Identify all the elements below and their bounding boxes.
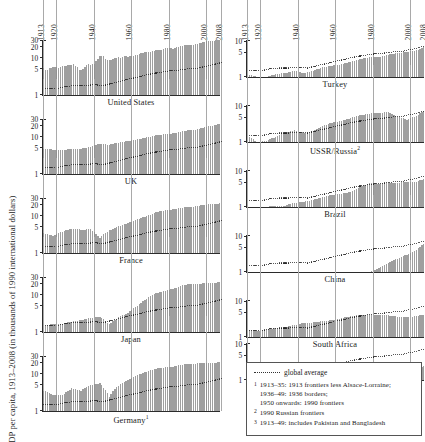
global-average-point [221,220,222,221]
global-average-point [120,318,121,319]
global-average-point [341,189,342,190]
global-average-point [294,197,295,198]
y-tick-label: 1 [239,203,243,210]
y-axis-label: GDP per capita, 1913–2008 (in thousands … [7,7,21,442]
y-tick-label: 1 [239,138,243,145]
global-average-point [279,327,280,328]
global-average-point [176,307,177,308]
panel-brazil: 1510Brazil [228,170,424,221]
global-average-point [371,184,372,185]
global-average-point [210,65,211,66]
panel-caption: Germany1 [42,414,220,425]
global-average-point [279,262,280,263]
y-tick-label: 5 [35,224,39,231]
global-average-point [264,264,265,265]
global-average-point [210,381,211,382]
global-average-point [266,199,267,200]
global-average-point [133,77,134,78]
global-average-point [311,196,312,197]
global-average-point [339,60,340,61]
global-average-point [384,312,385,313]
global-average-point [266,69,267,70]
global-average-point [116,319,117,320]
y-tick-label: 5 [239,309,243,316]
year-tick-label: 1960 [126,24,134,40]
global-average-point [165,308,166,309]
y-tick-label: 10 [235,103,243,110]
global-average-point [307,262,308,263]
global-average-point [148,74,149,75]
global-average-point [165,71,166,72]
global-average-point [105,242,106,243]
year-axis-right: 1913192019401960198020002008 [228,0,424,40]
bar [423,315,424,337]
global-average-point [382,248,383,249]
global-average-point [399,311,400,312]
global-average-point [88,322,89,323]
global-average-point [384,355,385,356]
global-average-point [354,121,355,122]
global-average-point [399,181,400,182]
global-average-point [341,319,342,320]
global-average-point [416,178,417,179]
bar [254,141,255,142]
global-average-point [133,235,134,236]
year-tick-label: 1940 [293,24,301,40]
global-average-point [354,56,355,57]
global-average-point [335,191,336,192]
global-average-point [150,231,151,232]
global-average-point [206,66,207,67]
global-average-point [281,132,282,133]
global-average-point [384,247,385,248]
global-average-point [124,238,125,239]
caption-footnote-marker: 1 [146,414,149,420]
global-average-point [58,167,59,168]
global-average-point [399,51,400,52]
global-average-point [335,61,336,62]
global-average-point [412,179,413,180]
y-tick-label: 1 [35,249,39,256]
y-tick-label: 5 [239,179,243,186]
global-average-point [193,384,194,385]
y-tick-label: 1 [35,328,39,335]
y-tick-label: 10 [31,54,39,61]
global-average-point [277,263,278,264]
global-average-point [365,185,366,186]
global-average-point [62,403,63,404]
global-average-point [382,183,383,184]
global-average-point [352,317,353,318]
global-average-point [401,51,402,52]
global-average-point [45,325,46,326]
global-average-point [90,400,91,401]
global-average-point [352,252,353,253]
year-tick-label: 1920 [255,24,263,40]
global-average-point [90,163,91,164]
global-average-point [354,316,355,317]
global-average-point [324,63,325,64]
global-average-point [167,308,168,309]
global-average-point [382,313,383,314]
global-average-point [309,132,310,133]
y-tick-label: 1 [239,268,243,275]
y-tick-label: 10 [31,133,39,140]
global-average-point [401,246,402,247]
global-average-point [150,152,151,153]
bar [254,76,255,77]
global-average-point [369,54,370,55]
global-average-point [75,164,76,165]
global-average-point [277,328,278,329]
global-average-point [107,163,108,164]
global-average-point [124,317,125,318]
global-average-point [137,314,138,315]
global-average-point [47,167,48,168]
global-average-point [195,384,196,385]
global-average-point [161,388,162,389]
global-average-point [416,113,417,114]
global-average-point [412,309,413,310]
global-average-point [335,126,336,127]
global-average-point [322,259,323,260]
global-average-point [167,150,168,151]
global-average-point [58,325,59,326]
global-average-point [352,187,353,188]
global-average-point [124,396,125,397]
